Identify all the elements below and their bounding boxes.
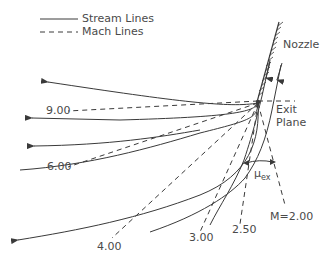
legend bbox=[40, 19, 78, 32]
legend-mach-label: Mach Lines bbox=[82, 26, 143, 37]
nozzle-label: Nozzle bbox=[283, 39, 319, 50]
mach-label-4: 4.00 bbox=[97, 241, 122, 252]
mu-ex-angle bbox=[243, 159, 276, 166]
exit-plane-label-1: Exit bbox=[276, 104, 297, 115]
mach-label-2: M=2.00 bbox=[270, 211, 313, 222]
exit-plane-label-2: Plane bbox=[276, 117, 306, 128]
legend-stream-label: Stream Lines bbox=[82, 13, 154, 24]
mach-label-9: 9.00 bbox=[46, 105, 71, 116]
mach-label-6: 6.00 bbox=[47, 161, 72, 172]
nozzle-flow-lines bbox=[150, 60, 282, 232]
mach-label-2-5: 2.50 bbox=[232, 224, 257, 235]
nozzle-lip bbox=[256, 100, 260, 104]
mu-subscript: ex bbox=[261, 173, 271, 182]
mu-symbol: μ bbox=[254, 167, 261, 180]
nozzle-diagram bbox=[0, 0, 329, 265]
mach-label-3: 3.00 bbox=[189, 232, 214, 243]
mu-ex-label: μex bbox=[254, 168, 271, 182]
